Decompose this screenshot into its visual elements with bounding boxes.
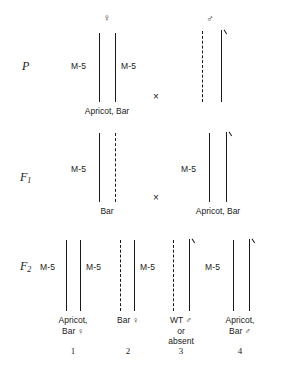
generation-label-f1: F1 [20, 170, 31, 185]
f1-cross-symbol: × [153, 192, 159, 203]
p-male-chromosome-x [202, 31, 203, 102]
f2-offspring-4-marker: M-5 [205, 262, 220, 272]
f2-offspring-2-phenotype: Bar ♀ [117, 315, 139, 326]
p-female-chromosome-left [99, 33, 100, 102]
f2-offspring-4-chromosome-y [249, 239, 250, 311]
f2-offspring-1-phenotype: Apricot, Bar ♀ [59, 315, 88, 336]
p-female-chromosome-right [115, 33, 116, 102]
f2-offspring-2-chromosome-left [120, 240, 121, 311]
f2-offspring-4-phenotype: Apricot, Bar ♂ [226, 315, 255, 336]
f2-offspring-1-number: 1 [71, 346, 76, 356]
f1-female-marker: M-5 [71, 164, 86, 174]
generation-label-p-text: P [22, 59, 29, 73]
f1-female-phenotype: Bar [100, 206, 113, 217]
generation-label-f2: F2 [20, 259, 31, 274]
f2-offspring-1-phenotype-line-1: Apricot, [59, 315, 88, 326]
f1-male-phenotype: Apricot, Bar [196, 206, 240, 217]
p-cross-symbol: × [153, 91, 159, 102]
f1-female-chromosome-left [99, 133, 100, 202]
f2-offspring-2-number: 2 [126, 346, 131, 356]
f2-offspring-3-number: 3 [179, 346, 184, 356]
f2-offspring-4-y-hook-icon [247, 239, 255, 246]
genetic-cross-diagram: P ♀ M-5 M-5 Apricot, Bar × ♂ F1 M-5 Bar … [0, 0, 286, 370]
f2-offspring-3-phenotype-line-3: absent [168, 336, 194, 347]
p-female-marker-left: M-5 [71, 61, 86, 71]
p-female-sex-symbol: ♀ [103, 13, 111, 23]
f2-offspring-1-chromosome-left [66, 240, 67, 311]
generation-label-p: P [22, 59, 29, 74]
f2-offspring-3-y-hook-icon [187, 239, 195, 246]
p-male-y-hook-icon [219, 30, 227, 37]
f1-male-chromosome-x [209, 133, 210, 202]
f2-offspring-2-chromosome-right [134, 240, 135, 311]
f2-offspring-4-phenotype-line-1: Apricot, [226, 315, 255, 326]
f2-offspring-3-chromosome-y [189, 239, 190, 311]
p-male-chromosome-y [221, 30, 222, 102]
f2-offspring-4-number: 4 [238, 346, 243, 356]
f2-offspring-4-phenotype-line-2: Bar ♂ [226, 326, 255, 337]
p-female-phenotype: Apricot, Bar [85, 106, 129, 117]
f2-offspring-2-marker: M-5 [140, 262, 155, 272]
f1-male-marker: M-5 [181, 164, 196, 174]
p-male-sex-symbol: ♂ [206, 14, 214, 24]
p-female-marker-right: M-5 [121, 61, 136, 71]
f2-offspring-3-phenotype: WT ♂ or absent [168, 315, 194, 347]
f1-male-y-hook-icon [224, 132, 232, 139]
f2-offspring-3-phenotype-line-1: WT ♂ [168, 315, 194, 326]
f2-offspring-2-phenotype-line-1: Bar ♀ [117, 315, 139, 326]
f2-offspring-1-marker-right: M-5 [86, 262, 101, 272]
f1-male-chromosome-y [226, 132, 227, 202]
f2-offspring-4-chromosome-x [233, 240, 234, 311]
f1-female-chromosome-right [115, 133, 116, 202]
generation-label-f1-sub: 1 [27, 176, 31, 185]
f2-offspring-3-phenotype-line-2: or [168, 326, 194, 337]
f2-offspring-1-phenotype-line-2: Bar ♀ [59, 326, 88, 337]
generation-label-f2-sub: 2 [27, 265, 31, 274]
f2-offspring-1-chromosome-right [80, 240, 81, 311]
f2-offspring-1-marker-left: M-5 [40, 262, 55, 272]
f2-offspring-3-chromosome-x [173, 240, 174, 311]
